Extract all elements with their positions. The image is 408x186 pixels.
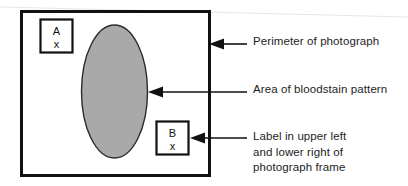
label-box-b-letter: B [169, 127, 176, 139]
bloodstain-pattern-ellipse [82, 25, 148, 158]
label-box-a-letter: A [53, 25, 61, 37]
callout-arrow-perimeter [209, 39, 247, 50]
diagram-root: A x B x Perimeter of photograph Area of … [0, 0, 408, 186]
callout-label-corner: Label in upper left and lower right of p… [253, 129, 346, 176]
callout-label-perimeter: Perimeter of photograph [253, 34, 379, 50]
label-box-a: A x [41, 20, 73, 53]
arrow-head-perimeter [209, 39, 224, 50]
label-box-b: B x [157, 122, 189, 155]
callout-label-area: Area of bloodstain pattern [253, 82, 387, 98]
label-box-b-mark: x [170, 140, 176, 152]
label-box-a-mark: x [54, 38, 60, 50]
